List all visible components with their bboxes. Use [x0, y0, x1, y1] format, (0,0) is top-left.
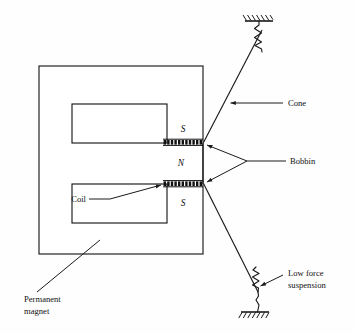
loudspeaker-diagram: S N S — [0, 0, 356, 333]
bobbin-leader-branch-bottom — [207, 161, 247, 182]
cone-lower-member — [204, 184, 259, 293]
bottom-fixture-hatching — [239, 312, 269, 318]
top-fixture-hatching — [243, 15, 273, 21]
diagram-canvas: S N S — [0, 0, 356, 333]
bottom-suspension-assembly — [239, 267, 269, 318]
low-force-label-line2: suspension — [288, 280, 326, 290]
magnet-upper-slot — [72, 104, 167, 143]
bobbin-label: Bobbin — [290, 156, 316, 166]
cone-upper-member — [204, 30, 263, 143]
permanent-magnet-label-line2: magnet — [24, 306, 50, 316]
pole-label-middle-n: N — [177, 158, 185, 168]
low-force-leader-line — [261, 275, 284, 286]
bobbin-callout: Bobbin — [207, 145, 316, 182]
bobbin-leader-branch-top — [207, 145, 247, 161]
low-force-label-line1: Low force — [288, 268, 324, 278]
cone-label: Cone — [288, 98, 306, 108]
top-coil-turns — [164, 140, 202, 145]
top-suspension-assembly — [243, 15, 273, 52]
low-force-suspension-callout: Low force suspension — [261, 268, 327, 290]
bottom-spring-tail — [256, 292, 259, 312]
cone-callout: Cone — [231, 98, 307, 108]
permanent-magnet-label-line1: Permanent — [24, 294, 61, 304]
bottom-coil-turns — [164, 181, 202, 186]
bottom-coil-winding — [163, 181, 203, 187]
pole-label-top-s: S — [181, 124, 186, 134]
top-coil-winding — [163, 139, 203, 145]
coil-label: Coil — [71, 194, 86, 204]
magnet-lower-slot — [72, 184, 167, 223]
pole-label-bottom-s: S — [181, 198, 186, 208]
